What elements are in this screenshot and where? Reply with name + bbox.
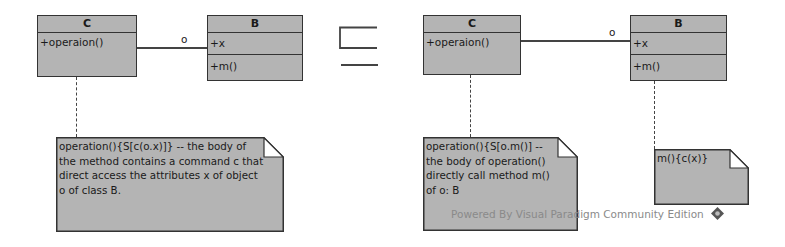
- note-text: operation(){S[o.m()] -- the body of oper…: [426, 139, 554, 197]
- operation: +operaion(): [38, 33, 136, 51]
- note-text: m(){c(x)}: [657, 151, 731, 166]
- association-role-label: o: [609, 26, 615, 38]
- class-c-left[interactable]: C +operaion(): [37, 15, 137, 77]
- note-b-right[interactable]: m(){c(x)}: [654, 149, 749, 205]
- class-name: C: [424, 16, 520, 33]
- association-line-left[interactable]: [137, 47, 207, 49]
- class-b-left[interactable]: B +x +m(): [207, 15, 303, 81]
- operation: +m(): [208, 55, 302, 77]
- refinement-symbol: [339, 26, 379, 68]
- class-name: C: [38, 16, 136, 33]
- class-name: B: [208, 16, 302, 33]
- visual-paradigm-logo-icon: [711, 207, 724, 222]
- operation: +m(): [631, 55, 726, 77]
- note-left[interactable]: operation(){S[c(o.x)]} -- the body of th…: [56, 137, 284, 232]
- association-role-label: o: [181, 33, 187, 45]
- watermark: Powered By Visual Paradigm Community Edi…: [451, 207, 724, 222]
- note-text: operation(){S[c(o.x)]} -- the body of th…: [59, 139, 266, 197]
- attribute: +x: [631, 33, 726, 55]
- note-anchor-left: [76, 77, 77, 137]
- association-line-right[interactable]: [521, 40, 630, 42]
- attribute: +x: [208, 33, 302, 55]
- operation: +operaion(): [424, 33, 520, 51]
- class-c-right[interactable]: C +operaion(): [423, 15, 521, 75]
- watermark-text: Powered By Visual Paradigm Community Edi…: [451, 208, 704, 220]
- note-anchor-c-right: [470, 75, 471, 137]
- class-name: B: [631, 16, 726, 33]
- class-b-right[interactable]: B +x +m(): [630, 15, 727, 81]
- note-anchor-b-right: [654, 81, 655, 149]
